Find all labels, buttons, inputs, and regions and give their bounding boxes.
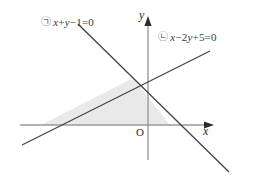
equation-text-line-2: x−2y+5=0 [170, 31, 217, 43]
circled-marker-nieun-icon: ㉡ [158, 31, 168, 42]
graph-canvas [0, 0, 258, 182]
circled-marker-giyeok-icon: ㉠ [41, 16, 51, 27]
eq1-zero: 0 [88, 16, 94, 28]
line-x-minus-2y-plus-5 [22, 51, 210, 145]
equation-label-line-2: ㉡x−2y+5=0 [158, 28, 217, 43]
shaded-region [41, 78, 170, 125]
y-axis-label: y [139, 8, 144, 23]
equation-text-line-1: x+y−1=0 [53, 16, 94, 28]
y-axis [144, 16, 151, 160]
eq2-zero: 0 [211, 31, 217, 43]
equation-label-line-1: ㉠x+y−1=0 [41, 13, 94, 28]
origin-label: O [136, 126, 144, 138]
x-axis-label: x [203, 124, 208, 139]
graph-figure: ㉠x+y−1=0 ㉡x−2y+5=0 y x O [0, 0, 258, 182]
